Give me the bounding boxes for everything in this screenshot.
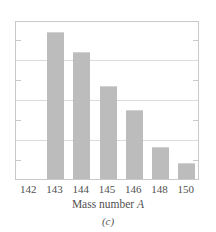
x-axis-title: Mass number A — [0, 197, 216, 211]
bar — [126, 110, 143, 179]
bar — [100, 86, 117, 179]
bar — [178, 163, 195, 179]
x-axis-tick-label: 144 — [72, 183, 89, 196]
figure-container: 142143144145146148150 Mass number A (c) — [0, 0, 216, 232]
x-axis-tick-label: 142 — [20, 183, 37, 196]
x-axis-tick-labels: 142143144145146148150 — [15, 183, 199, 197]
x-axis-tick-label: 145 — [99, 183, 116, 196]
x-axis-tick-label: 143 — [46, 183, 63, 196]
x-axis-tick-label: 148 — [151, 183, 168, 196]
x-axis-title-text: Mass number — [72, 198, 134, 210]
bar — [152, 147, 169, 179]
bar-series — [16, 22, 198, 179]
x-axis-tick-label: 150 — [178, 183, 195, 196]
x-axis-title-variable: A — [137, 198, 144, 210]
bar — [47, 32, 64, 179]
plot-area — [15, 21, 199, 180]
x-axis-tick-label: 146 — [125, 183, 142, 196]
bar — [73, 52, 90, 179]
subfigure-caption: (c) — [0, 214, 216, 228]
